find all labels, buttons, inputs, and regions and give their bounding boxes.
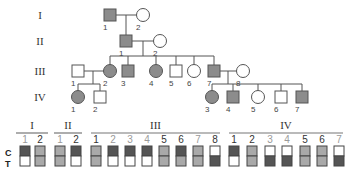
marker-individual-number: 7 — [195, 134, 201, 145]
marker-individual-number: 1 — [231, 134, 237, 145]
allele-t-cell — [142, 156, 152, 166]
genotype-box — [282, 146, 292, 166]
generation-label: II — [36, 35, 44, 47]
marker-individual-number: 1 — [93, 134, 99, 145]
marker-generation-label: I — [30, 119, 34, 131]
genotype-box — [334, 146, 344, 166]
individual-number: 3 — [121, 79, 126, 88]
marker-group-iv: IV1234567 — [229, 119, 344, 166]
allele-c-cell — [334, 146, 344, 156]
genotype-box — [55, 146, 65, 166]
marker-individual-number: 1 — [22, 134, 28, 145]
male-square-icon — [275, 91, 287, 103]
marker-individual-number: 2 — [110, 134, 116, 145]
allele-label-t: T — [5, 159, 11, 169]
genotype-box — [159, 146, 169, 166]
individual-number: 2 — [153, 49, 158, 58]
marker-individual-number: 3 — [127, 134, 133, 145]
marker-individual-number: 2 — [73, 134, 79, 145]
individual-iv-7: 7 — [295, 91, 308, 114]
female-circle-icon — [154, 35, 167, 48]
pedigree-diagram: IIIIIIIV 1212123456781234567 CTI1 — [0, 0, 350, 173]
affected-female-circle-icon — [150, 65, 163, 78]
allele-c-cell — [71, 146, 81, 156]
allele-t-cell — [300, 156, 310, 166]
allele-c-cell — [142, 146, 152, 156]
marker-individual-number: 4 — [144, 134, 150, 145]
generation-labels: IIIIIIIV — [34, 9, 46, 103]
marker-individual-number: 1 — [57, 134, 63, 145]
male-square-icon — [170, 65, 182, 77]
individual-number: 2 — [103, 79, 108, 88]
individual-number: 3 — [205, 105, 210, 114]
genotype-box — [35, 146, 45, 166]
marker-generation-label: IV — [280, 119, 292, 131]
genotype-box — [229, 146, 239, 166]
female-circle-icon — [137, 9, 150, 22]
individual-iii-3: 3 — [121, 65, 134, 88]
allele-t-cell — [35, 156, 45, 166]
individual-number: 7 — [295, 105, 300, 114]
affected-female-circle-icon — [72, 91, 85, 104]
allele-c-cell — [55, 146, 65, 156]
marker-individual-number: 2 — [249, 134, 255, 145]
individual-number: 5 — [251, 105, 256, 114]
individual-ii-1: 1 — [119, 35, 132, 58]
allele-t-cell — [20, 156, 30, 166]
individual-iii-7: 7 — [207, 65, 220, 88]
marker-individual-number: 6 — [319, 134, 325, 145]
female-circle-icon — [237, 65, 250, 78]
allele-t-cell — [317, 156, 327, 166]
genotype-box — [91, 146, 101, 166]
affected-male-square-icon — [227, 91, 239, 103]
affected-male-square-icon — [208, 65, 220, 77]
individual-number: 4 — [149, 79, 154, 88]
marker-individual-number: 3 — [267, 134, 273, 145]
affected-male-square-icon — [120, 35, 132, 47]
individual-number: 1 — [71, 79, 76, 88]
marker-individual-number: 8 — [212, 134, 218, 145]
allele-c-cell — [108, 146, 118, 156]
individual-number: 1 — [119, 49, 124, 58]
individual-iii-6: 6 — [187, 65, 201, 89]
genotype-box — [317, 146, 327, 166]
allele-c-cell — [193, 146, 203, 156]
affected-male-square-icon — [296, 91, 308, 103]
individual-number: 4 — [226, 105, 231, 114]
allele-t-cell — [265, 156, 275, 166]
individual-number: 5 — [169, 79, 174, 88]
genotype-box — [142, 146, 152, 166]
allele-t-cell — [125, 156, 135, 166]
marker-individual-number: 2 — [37, 134, 43, 145]
genotype-box — [71, 146, 81, 166]
genotype-box — [108, 146, 118, 166]
individual-number: 1 — [103, 23, 108, 32]
individual-iv-3: 3 — [205, 91, 219, 115]
individual-iii-4: 4 — [149, 65, 163, 89]
generation-label: III — [35, 65, 46, 77]
individual-iv-1: 1 — [71, 91, 85, 115]
marker-individual-number: 4 — [284, 134, 290, 145]
allele-t-cell — [71, 156, 81, 166]
allele-t-cell — [55, 156, 65, 166]
generation-label: I — [38, 9, 42, 21]
allele-t-cell — [334, 156, 344, 166]
individual-number: 2 — [93, 105, 98, 114]
individual-iv-6: 6 — [274, 91, 287, 114]
allele-c-cell — [282, 146, 292, 156]
allele-c-cell — [125, 146, 135, 156]
allele-c-cell — [247, 146, 257, 156]
allele-t-cell — [210, 156, 220, 166]
individual-number: 6 — [274, 105, 279, 114]
pedigree-individuals: 1212123456781234567 — [71, 9, 308, 115]
male-square-icon — [94, 91, 106, 103]
individual-number: 1 — [71, 105, 76, 114]
allele-t-cell — [108, 156, 118, 166]
individual-iii-5: 5 — [169, 65, 182, 88]
female-circle-icon — [252, 91, 265, 104]
individual-iv-4: 4 — [226, 91, 239, 114]
individual-iii-2: 2 — [103, 65, 117, 89]
genotype-box — [193, 146, 203, 166]
genotype-box — [265, 146, 275, 166]
affected-male-square-icon — [104, 9, 116, 21]
